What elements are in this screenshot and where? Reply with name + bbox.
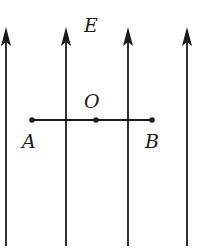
point-a [29, 117, 35, 123]
point-label-a: A [20, 130, 36, 152]
point-label-o: O [84, 90, 100, 112]
points: AOB [20, 90, 159, 152]
point-label-b: B [144, 130, 159, 152]
field-diagram: AOB E [0, 0, 207, 252]
field-label-e: E [83, 14, 98, 36]
point-o [93, 117, 99, 123]
point-b [149, 117, 155, 123]
